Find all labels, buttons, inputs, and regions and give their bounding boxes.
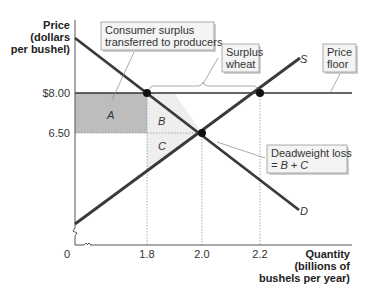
- svg-text:Price: Price: [43, 19, 70, 31]
- area-b-label: B: [158, 115, 165, 127]
- y-tick-6-50: 6.50: [49, 127, 70, 139]
- callout-consumer-surplus: Consumer surplus transferred to producer…: [101, 22, 223, 52]
- quantity-demanded-point: [143, 89, 151, 97]
- callout-price-floor: Price floor: [323, 44, 358, 74]
- price-floor-diagram: Consumer surplus transferred to producer…: [0, 0, 376, 301]
- demand-label: D: [300, 205, 308, 217]
- equilibrium-point: [198, 129, 206, 137]
- supply-label: S: [300, 53, 308, 65]
- supply-curve: [75, 58, 300, 224]
- callout-surplus-wheat: Surplus wheat: [222, 44, 264, 74]
- callout-deadweight-loss: Deadweight loss = B + C: [267, 145, 352, 175]
- svg-text:Quantity: Quantity: [305, 248, 350, 260]
- x-axis-title: Quantity (billions of bushels per year): [259, 248, 351, 284]
- x-tick-0: 0: [64, 248, 70, 260]
- area-a-label: A: [106, 109, 114, 121]
- callout-text: wheat: [225, 58, 255, 70]
- x-tick-2-2: 2.2: [252, 248, 267, 260]
- callout-text: Deadweight loss: [271, 147, 352, 159]
- callout-text: transferred to producers: [105, 36, 223, 48]
- x-tick-1-8: 1.8: [139, 248, 154, 260]
- quantity-supplied-point: [256, 89, 264, 97]
- callout-text: Surplus: [226, 46, 264, 58]
- svg-text:per bushel): per bushel): [11, 43, 71, 55]
- y-tick-8: $8.00: [42, 87, 70, 99]
- x-tick-2-0: 2.0: [194, 248, 209, 260]
- callout-text: Consumer surplus: [105, 24, 195, 36]
- callout-text: Price: [327, 46, 352, 58]
- svg-text:(billions of: (billions of: [294, 260, 350, 272]
- area-c-label: C: [158, 140, 166, 152]
- svg-text:bushels per year): bushels per year): [259, 272, 350, 284]
- y-axis-title: Price (dollars per bushel): [11, 19, 71, 55]
- callout-text: = B + C: [271, 159, 308, 171]
- svg-text:(dollars: (dollars: [30, 31, 70, 43]
- callout-text: floor: [327, 58, 349, 70]
